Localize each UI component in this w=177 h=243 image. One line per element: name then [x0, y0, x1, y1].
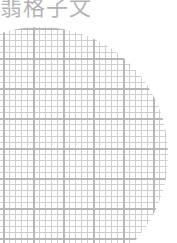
grid-paper-circle-graphic	[0, 27, 168, 243]
title-text: 翡格子文	[0, 0, 92, 22]
